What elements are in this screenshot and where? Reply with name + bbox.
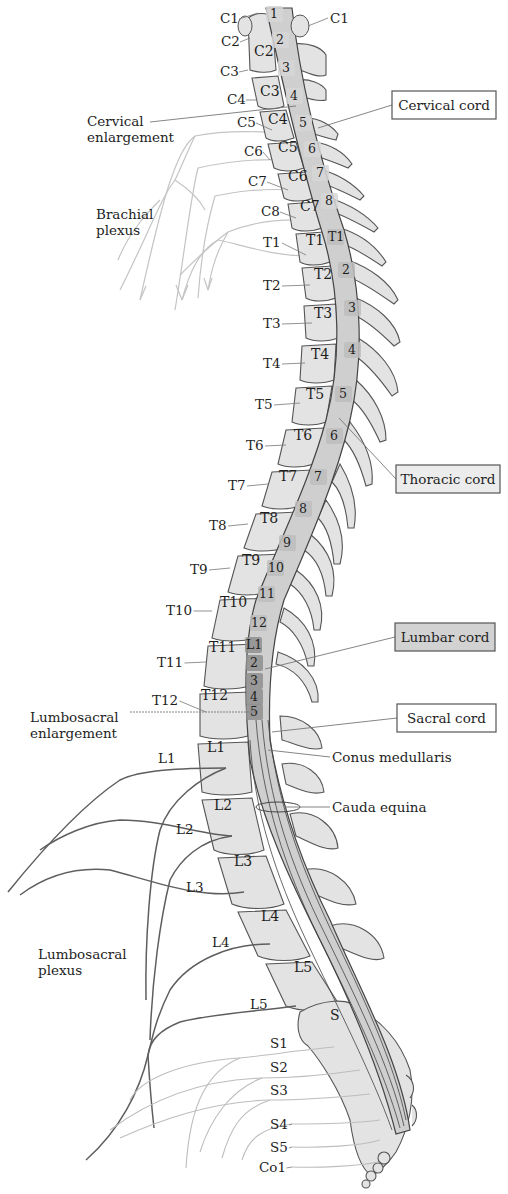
cord-segment-label: 8 <box>325 193 333 208</box>
vertebra-label: T3 <box>314 305 332 321</box>
vertebra-label: C2 <box>254 43 274 59</box>
region-box-label-lumbar: Lumbar cord <box>401 629 490 645</box>
vertebra-label: T12 <box>201 687 228 703</box>
spinal-nerve-label: C2 <box>221 33 240 49</box>
spinal-nerve-label: T1 <box>263 234 281 250</box>
cord-segment-label: 12 <box>251 615 267 630</box>
spinal-nerve-label: T4 <box>263 355 281 371</box>
nerve-leader-line <box>287 1167 293 1168</box>
nerve-leader-line <box>239 70 248 72</box>
vertebra-label: L3 <box>234 853 252 869</box>
nerve-leader-line <box>247 484 268 486</box>
nerve-leader-line <box>289 1147 292 1148</box>
annotation-leader-line <box>268 750 330 757</box>
cord-segment-label: 2 <box>250 655 258 670</box>
spinal-nerve-label: C1 <box>220 10 239 26</box>
cord-segment-label: 10 <box>268 560 284 575</box>
cord-segment-label: T1 <box>328 229 344 244</box>
cord-segment-label: 5 <box>250 704 258 719</box>
region-box-label-sacral: Sacral cord <box>407 710 486 726</box>
cord-segment-label: 7 <box>316 165 324 180</box>
spinal-nerve-label: C6 <box>244 143 263 159</box>
region-box-label-cervical: Cervical cord <box>398 97 490 113</box>
vertebra-label: T4 <box>311 346 329 362</box>
nerve-leader-line <box>228 524 248 526</box>
vertebra-label: T5 <box>306 386 324 402</box>
vertebra-label: T11 <box>209 639 236 655</box>
spinal-nerve-label: S4 <box>270 1116 288 1132</box>
cord-segment-label: 1 <box>270 6 278 21</box>
spinal-nerve-label: T8 <box>209 517 227 533</box>
cord-segment-label: 2 <box>276 32 284 47</box>
region-leader-line <box>318 105 392 128</box>
spinal-nerve-label: Co1 <box>259 1159 286 1175</box>
spinal-nerve-label: T12 <box>152 692 178 708</box>
spinal-nerve-label: T10 <box>166 602 192 618</box>
annotation-brachial-plexus: plexus <box>96 222 140 238</box>
cord-segment-label: 9 <box>283 535 291 550</box>
vertebra-label: C6 <box>288 168 308 184</box>
spinal-nerve-label: S2 <box>270 1059 288 1075</box>
annotation-conus-medullaris: Conus medullaris <box>332 749 452 765</box>
spinal-nerve-label: L4 <box>212 934 230 950</box>
spinal-nerve-label: C4 <box>227 91 246 107</box>
annotation-lumbosacral-enlargement: enlargement <box>30 725 118 741</box>
vertebra-label: T2 <box>314 266 332 282</box>
cord-segment-label: 4 <box>250 689 258 704</box>
spinal-nerve-label: S5 <box>270 1139 288 1155</box>
atlas-process-right <box>291 15 309 37</box>
cord-segment-label: 5 <box>339 386 347 401</box>
spinal-nerve-label: T7 <box>228 477 246 493</box>
spinal-nerve-label: T6 <box>246 437 264 453</box>
cord-segment-label: 3 <box>250 673 258 688</box>
cord-segment-label: 8 <box>299 501 307 516</box>
region-leader-line <box>265 637 395 669</box>
spinal-nerve-label: T5 <box>255 396 273 412</box>
vertebra-label: L1 <box>207 739 225 755</box>
cord-segment-label: 3 <box>348 300 356 315</box>
annotation-cervical-enlargement: enlargement <box>87 129 175 145</box>
spine-illustration: 12345678T123456789101112L12345C2C3C4C5C6… <box>0 0 508 1194</box>
spinal-nerve-label: C5 <box>237 114 256 130</box>
spinal-nerve-label: T3 <box>263 315 281 331</box>
spinal-nerve-label: S1 <box>270 1035 288 1051</box>
spinal-nerve-label: L2 <box>176 821 194 837</box>
annotation-lumbosacral-enlargement: Lumbosacral <box>30 709 119 725</box>
annotation-lumbosacral-plexus: plexus <box>38 962 82 978</box>
spinal-nerve-label: T11 <box>157 654 183 670</box>
cord-segment-label: 5 <box>299 115 307 130</box>
spinal-nerve-label: L1 <box>158 750 176 766</box>
cord-segment-label: 6 <box>330 428 338 443</box>
spinal-nerve-label: S3 <box>270 1082 288 1098</box>
region-box-label-thoracic: Thoracic cord <box>401 471 496 487</box>
vertebra-label: T1 <box>306 232 324 248</box>
vertebra-label: C3 <box>260 83 280 99</box>
vertebra-label: S <box>330 1007 340 1023</box>
spinal-nerve-label: L3 <box>186 879 204 895</box>
nerve-leader-line <box>209 568 230 570</box>
spinal-nerve-label: L5 <box>250 996 268 1012</box>
cord-segment-label: 4 <box>348 342 356 357</box>
spinal-nerve-label: C7 <box>248 173 267 189</box>
cord-segment-label: L1 <box>246 637 262 652</box>
spinal-nerve-label: C1 <box>330 10 349 26</box>
spinal-nerve-label: T2 <box>263 277 281 293</box>
cord-segment-label: 3 <box>282 60 290 75</box>
spinal-nerve-label: C8 <box>261 203 280 219</box>
vertebra-label: L4 <box>261 908 279 924</box>
nerve-leader-line <box>185 662 207 663</box>
annotation-brachial-plexus: Brachial <box>96 206 153 222</box>
vertebra-label: L2 <box>214 797 232 813</box>
nerve-leader-line <box>263 152 270 160</box>
annotation-cauda-equina: Cauda equina <box>332 799 426 815</box>
cord-segment-label: 6 <box>308 141 316 156</box>
spinal-nerve-label: C3 <box>220 63 239 79</box>
cord-segment-label: 7 <box>314 469 322 484</box>
vertebra-label: T10 <box>220 594 247 610</box>
vertebra-label: T8 <box>260 510 278 526</box>
vertebra-label: L5 <box>294 959 312 975</box>
vertebra-label: T7 <box>279 468 297 484</box>
vertebra-label: C7 <box>300 198 320 214</box>
cord-segment-label: 2 <box>342 262 350 277</box>
cord-segment-label: 11 <box>259 586 275 601</box>
